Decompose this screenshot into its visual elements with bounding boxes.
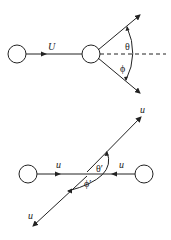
phi-prime-label: ϕ′ — [84, 178, 91, 189]
diagonal-down-line — [33, 176, 87, 226]
particle-left-cm — [19, 165, 37, 183]
incoming-arrow-icon — [41, 52, 47, 57]
outgoing-bottom-line — [98, 58, 140, 93]
particle-left — [8, 45, 26, 63]
upper-diagram: U θ ϕ — [8, 15, 166, 93]
right-velocity-label: u — [119, 159, 124, 170]
outgoing-top-line — [98, 15, 140, 50]
collision-diagram: U θ ϕ u u u u θ′ ϕ′ — [0, 0, 171, 240]
phi-label: ϕ — [120, 63, 125, 74]
particle-target — [82, 45, 100, 63]
incoming-velocity-label: U — [48, 41, 56, 52]
left-arrow-icon — [55, 172, 61, 177]
theta-prime-label: θ′ — [96, 163, 103, 174]
bottom-out-label: u — [28, 210, 33, 221]
top-out-label: u — [140, 104, 145, 115]
particle-right-cm — [135, 165, 153, 183]
lower-diagram: u u u u θ′ ϕ′ — [19, 104, 153, 226]
theta-label: θ — [125, 41, 130, 52]
right-arrow-icon — [111, 172, 117, 177]
left-velocity-label: u — [56, 159, 61, 170]
